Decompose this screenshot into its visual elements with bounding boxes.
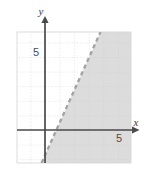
inequality-graph-figure: x y 5 5 — [0, 0, 145, 178]
x-axis-tick-label-5: 5 — [116, 132, 122, 144]
graph-canvas: x y 5 5 — [0, 0, 145, 178]
y-axis-tick-label-5: 5 — [33, 46, 39, 58]
y-axis-label: y — [38, 5, 44, 17]
x-axis-label: x — [133, 116, 139, 128]
